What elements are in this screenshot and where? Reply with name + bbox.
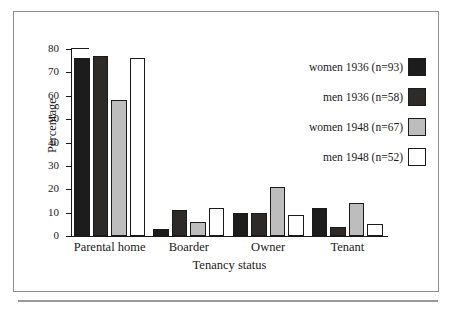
legend-label: men 1948 (n=52) bbox=[323, 151, 403, 164]
bar bbox=[367, 224, 383, 236]
bar bbox=[190, 222, 206, 236]
bar bbox=[312, 208, 328, 236]
legend-swatch bbox=[408, 58, 426, 76]
legend-item: men 1936 (n=58) bbox=[286, 82, 426, 112]
bar bbox=[349, 203, 365, 236]
legend-swatch bbox=[408, 148, 426, 166]
x-axis-title: Tenancy status bbox=[71, 258, 388, 273]
bar bbox=[233, 213, 249, 236]
legend-item: women 1948 (n=67) bbox=[286, 112, 426, 142]
y-axis-tick-label: 10 bbox=[33, 207, 59, 218]
legend-label: women 1948 (n=67) bbox=[309, 121, 403, 134]
bar bbox=[270, 187, 286, 236]
legend: women 1936 (n=93)men 1936 (n=58)women 19… bbox=[286, 52, 426, 172]
figure-root: 01020304050607080 Parental homeBoarderOw… bbox=[0, 0, 454, 310]
bar bbox=[288, 215, 304, 236]
bar bbox=[111, 100, 127, 236]
x-axis-category-label: Tenant bbox=[287, 240, 407, 254]
bar bbox=[172, 210, 188, 236]
bar bbox=[330, 227, 346, 236]
bar bbox=[153, 229, 169, 236]
bar bbox=[130, 58, 146, 236]
y-axis-title: Percentage bbox=[45, 66, 60, 186]
y-axis-tick bbox=[66, 236, 71, 237]
bar bbox=[209, 208, 225, 236]
y-axis-tick-label: 80 bbox=[33, 43, 59, 54]
bar bbox=[93, 56, 109, 236]
bar bbox=[251, 213, 267, 236]
legend-label: women 1936 (n=93) bbox=[309, 61, 403, 74]
bottom-rule bbox=[18, 300, 438, 302]
legend-item: men 1948 (n=52) bbox=[286, 142, 426, 172]
legend-item: women 1936 (n=93) bbox=[286, 52, 426, 82]
legend-label: men 1936 (n=58) bbox=[323, 91, 403, 104]
legend-swatch bbox=[408, 88, 426, 106]
bar bbox=[74, 58, 90, 236]
x-axis-line bbox=[71, 236, 388, 237]
legend-swatch bbox=[408, 118, 426, 136]
